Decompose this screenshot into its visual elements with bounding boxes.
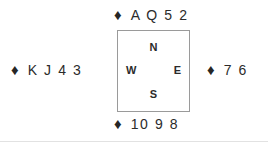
compass-label-west: W	[126, 65, 136, 76]
diamond-suit-icon: ♦	[207, 62, 215, 77]
compass-label-north: N	[118, 42, 189, 53]
hand-west: ♦ K J 4 3	[11, 62, 82, 77]
bridge-hand-diagram: ♦ A Q 5 2 ♦ K J 4 3 N W E S ♦ 7 6 ♦ 10 9…	[0, 0, 268, 142]
hand-north-ranks: A Q 5 2	[131, 8, 189, 22]
compass-label-east: E	[174, 65, 181, 76]
bottom-divider	[0, 141, 268, 142]
hand-west-ranks: K J 4 3	[28, 63, 83, 77]
hand-east-ranks: 7 6	[224, 63, 248, 77]
hand-south: ♦ 10 9 8	[114, 116, 179, 131]
diamond-suit-icon: ♦	[11, 62, 19, 77]
compass-label-south: S	[118, 89, 189, 100]
compass-box: N W E S	[117, 30, 190, 112]
hand-north: ♦ A Q 5 2	[114, 7, 189, 22]
diamond-suit-icon: ♦	[114, 116, 122, 131]
hand-east: ♦ 7 6	[207, 62, 248, 77]
diamond-suit-icon: ♦	[114, 7, 122, 22]
hand-south-ranks: 10 9 8	[131, 117, 180, 131]
